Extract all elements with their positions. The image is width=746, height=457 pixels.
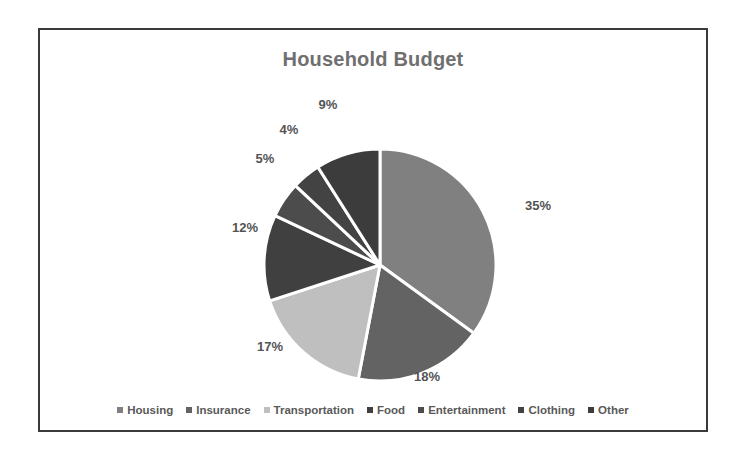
slice-data-label-transportation: 17% (257, 339, 283, 354)
legend-item-clothing[interactable]: Clothing (518, 404, 575, 416)
chart-frame: Household Budget 35%18%17%12%5%4%9% Hous… (38, 28, 708, 432)
slice-data-label-other: 9% (319, 97, 338, 112)
legend-item-transportation[interactable]: Transportation (264, 404, 355, 416)
legend-item-label: Insurance (196, 404, 250, 416)
legend-item-housing[interactable]: Housing (117, 404, 173, 416)
legend-swatch-icon (367, 407, 373, 413)
legend-swatch-icon (117, 407, 123, 413)
legend-item-label: Transportation (274, 404, 355, 416)
slice-data-label-insurance: 18% (414, 369, 440, 384)
legend-item-food[interactable]: Food (367, 404, 405, 416)
legend-swatch-icon (186, 407, 192, 413)
slice-data-label-entertainment: 5% (256, 151, 275, 166)
legend-item-insurance[interactable]: Insurance (186, 404, 250, 416)
legend-item-label: Housing (127, 404, 173, 416)
legend-item-label: Food (377, 404, 405, 416)
legend-item-label: Clothing (528, 404, 575, 416)
pie-chart-svg (40, 30, 706, 430)
legend-swatch-icon (264, 407, 270, 413)
slice-data-label-food: 12% (232, 220, 258, 235)
legend-item-entertainment[interactable]: Entertainment (418, 404, 505, 416)
pie-chart-plot-area: 35%18%17%12%5%4%9% (40, 30, 706, 430)
legend-item-label: Entertainment (428, 404, 505, 416)
legend-item-label: Other (598, 404, 629, 416)
legend-item-other[interactable]: Other (588, 404, 629, 416)
legend-swatch-icon (418, 407, 424, 413)
slice-data-label-housing: 35% (525, 198, 551, 213)
slice-data-label-clothing: 4% (280, 122, 299, 137)
legend-swatch-icon (518, 407, 524, 413)
chart-legend: HousingInsuranceTransportationFoodEntert… (40, 404, 706, 416)
legend-swatch-icon (588, 407, 594, 413)
